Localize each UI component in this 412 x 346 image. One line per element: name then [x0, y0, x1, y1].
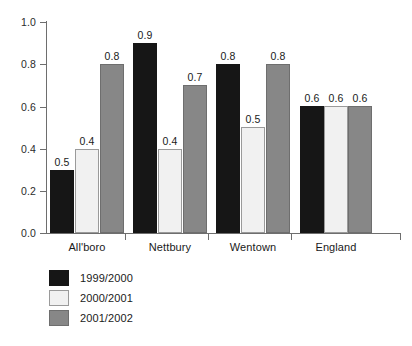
chart-legend: 1999/2000 2000/2001 2001/2002: [49, 269, 133, 329]
legend-item-2000-2001: 2000/2001: [49, 289, 133, 307]
bar: [266, 64, 290, 233]
bar: [50, 170, 74, 233]
y-axis-tick: [40, 64, 47, 65]
legend-item-2001-2002: 2001/2002: [49, 309, 133, 327]
bar: [100, 64, 124, 233]
bar-value-label: 0.6: [348, 93, 372, 104]
x-axis-tick: [291, 234, 292, 240]
x-axis-category-label: England: [296, 241, 376, 254]
y-axis-tick-label: 0.0: [2, 228, 36, 238]
bar-value-label: 0.8: [216, 51, 240, 62]
bar-value-label: 0.4: [75, 136, 99, 147]
legend-swatch-icon: [49, 310, 69, 326]
bar-chart: 1.0 0.8 0.6 0.4 0.2 0.0 0.5 0.4 0.8 All'…: [0, 0, 412, 346]
bar: [158, 149, 182, 233]
legend-item-label: 2001/2002: [80, 312, 133, 325]
bar: [241, 127, 265, 233]
bar-value-label: 0.5: [50, 157, 74, 168]
bar-value-label: 0.8: [266, 51, 290, 62]
bar-value-label: 0.8: [100, 51, 124, 62]
bar: [216, 64, 240, 233]
y-axis-tick: [40, 233, 47, 234]
y-axis-tick-label: 1.0: [2, 17, 36, 27]
y-axis-tick-label: 0.2: [2, 186, 36, 196]
y-axis-line: [46, 21, 47, 234]
x-axis-line: [46, 233, 401, 234]
bar: [183, 85, 207, 233]
y-axis-tick: [40, 149, 47, 150]
x-axis-category-label: Wentown: [213, 241, 293, 254]
legend-item-label: 2000/2001: [80, 292, 133, 305]
y-axis-tick: [40, 22, 47, 23]
x-axis-tick: [125, 234, 126, 240]
bar-value-label: 0.4: [158, 136, 182, 147]
x-axis-tick: [208, 234, 209, 240]
bar: [348, 106, 372, 233]
x-axis-category-label: All'boro: [47, 241, 127, 254]
bar-value-label: 0.5: [241, 114, 265, 125]
bar-value-label: 0.9: [133, 30, 157, 41]
bar-value-label: 0.6: [300, 93, 324, 104]
bar: [133, 43, 157, 233]
bar: [324, 106, 348, 233]
y-axis-tick-label: 0.8: [2, 59, 36, 69]
legend-item-label: 1999/2000: [80, 272, 133, 285]
y-axis-tick-label: 0.6: [2, 102, 36, 112]
legend-swatch-icon: [49, 270, 69, 286]
legend-swatch-icon: [49, 290, 69, 306]
x-axis-tick: [400, 234, 401, 240]
y-axis-tick: [40, 107, 47, 108]
y-axis-tick-label: 0.4: [2, 144, 36, 154]
bar-value-label: 0.6: [324, 93, 348, 104]
x-axis-category-label: Nettbury: [130, 241, 210, 254]
y-axis-tick: [40, 191, 47, 192]
legend-item-1999-2000: 1999/2000: [49, 269, 133, 287]
bar: [300, 106, 324, 233]
bar: [75, 149, 99, 233]
bar-value-label: 0.7: [183, 72, 207, 83]
